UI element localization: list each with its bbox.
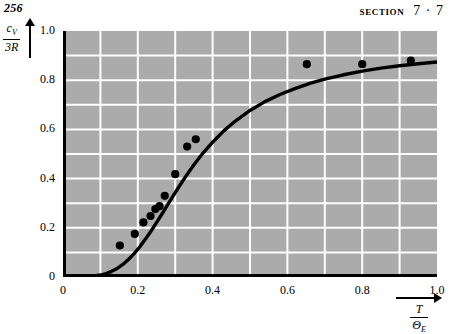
x-axis-label-fraction: T ΘE <box>410 303 428 334</box>
x-axis-label: T ΘE <box>396 293 442 334</box>
data-point <box>407 56 415 64</box>
x-axis-tick-label: 1.0 <box>422 283 452 298</box>
data-point <box>139 218 147 226</box>
einstein-heat-capacity-chart <box>63 31 437 277</box>
page-number: 256 <box>4 1 23 16</box>
y-axis-tick-label: 0.4 <box>25 171 55 186</box>
y-axis-tick-label: 0 <box>25 269 55 284</box>
x-axis-denominator: ΘE <box>410 319 428 334</box>
x-axis-numerator: T <box>414 303 425 316</box>
y-axis-tick-label: 0.2 <box>25 220 55 235</box>
x-axis-tick-label: 0.6 <box>272 283 302 298</box>
y-axis-tick-label: 1.0 <box>25 23 55 38</box>
y-axis-denominator: 3R <box>3 41 20 54</box>
y-axis-tick-label: 0.8 <box>25 72 55 87</box>
data-point <box>192 135 200 143</box>
x-axis-tick-label: 0.2 <box>123 283 153 298</box>
data-point <box>183 143 191 151</box>
data-point <box>116 241 124 249</box>
data-point <box>155 202 163 210</box>
section-label: SECTION <box>360 7 405 17</box>
data-point <box>358 60 366 68</box>
x-axis-tick-label: 0.4 <box>198 283 228 298</box>
data-point <box>146 212 154 220</box>
section-number: 7 · 7 <box>413 3 444 19</box>
x-axis-tick-label: 0.8 <box>347 283 377 298</box>
y-axis-numerator: cV <box>5 22 19 38</box>
y-axis-tick-label: 0.6 <box>25 121 55 136</box>
x-axis-tick-label: 0 <box>48 283 78 298</box>
chart-plot-area <box>63 31 437 277</box>
data-point <box>131 230 139 238</box>
data-point <box>171 170 179 178</box>
y-axis-label-fraction: cV 3R <box>3 22 20 53</box>
data-point <box>303 60 311 68</box>
section-header: SECTION 7 · 7 <box>360 3 444 19</box>
data-point <box>161 192 169 200</box>
